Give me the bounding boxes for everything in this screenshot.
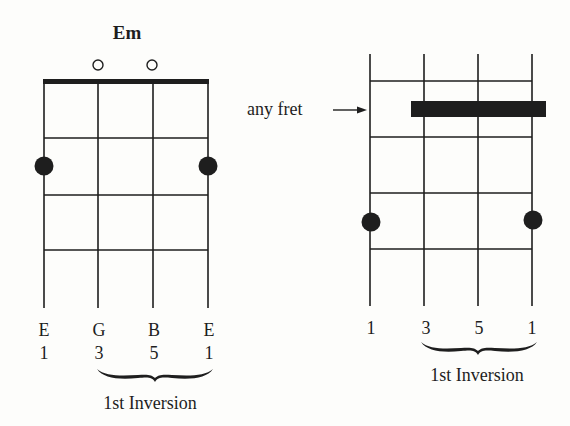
string-degree: 3 — [422, 318, 431, 338]
finger-dot-icon — [35, 157, 54, 176]
string-degree: 5 — [150, 343, 159, 363]
string-degree: 1 — [205, 343, 214, 363]
finger-dot-icon — [199, 157, 218, 176]
left-chord-diagram: Em E G B E 1 3 5 1 1st Inve — [35, 22, 218, 413]
string-note: E — [39, 320, 50, 340]
string-degree: 1 — [367, 318, 376, 338]
chord-name: Em — [113, 22, 142, 43]
string-degree: 5 — [475, 318, 484, 338]
frets — [44, 138, 208, 250]
strings — [370, 54, 532, 306]
string-note: E — [204, 320, 215, 340]
string-note: B — [148, 320, 160, 340]
string-degree: 1 — [40, 343, 49, 363]
string-degree: 1 — [528, 318, 537, 338]
barre-bar — [411, 101, 546, 117]
open-string-icon — [93, 60, 103, 70]
right-chord-diagram: any fret 1 3 5 1 1st Inversion — [247, 54, 546, 385]
chord-diagrams: Em E G B E 1 3 5 1 1st Inve — [0, 0, 570, 426]
string-degree: 3 — [95, 343, 104, 363]
finger-dot-icon — [362, 213, 381, 232]
string-note: G — [93, 320, 106, 340]
inversion-label: 1st Inversion — [103, 393, 197, 413]
arrow-right-icon — [333, 107, 367, 114]
brace-icon — [421, 342, 537, 355]
any-fret-label: any fret — [247, 99, 302, 119]
finger-dot-icon — [524, 211, 543, 230]
inversion-label: 1st Inversion — [430, 365, 524, 385]
brace-icon — [97, 369, 213, 382]
nut — [43, 79, 209, 84]
open-string-icon — [147, 60, 157, 70]
